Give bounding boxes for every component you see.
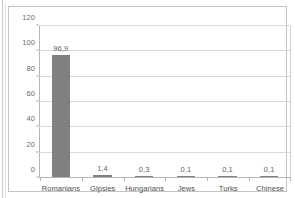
y-axis-tick-label: 100 [22, 38, 35, 47]
bar[interactable]: 0,1 [260, 176, 278, 177]
bar-value-label: 0,1 [180, 165, 191, 174]
bar-column: 1,4 [82, 26, 124, 177]
bar[interactable]: 96,9 [52, 55, 70, 177]
bar[interactable]: 0,3 [135, 176, 153, 177]
bar-value-label: 0,1 [222, 165, 233, 174]
bar-value-label: 0,1 [264, 165, 275, 174]
x-axis-tick-cell [207, 178, 249, 182]
x-axis-tick-cell [82, 178, 124, 182]
bar-value-label: 1,4 [97, 164, 108, 173]
y-axis-tick-mark [36, 75, 39, 76]
x-axis-category-label: Hungarians [124, 184, 166, 193]
x-axis-tick-mark [207, 178, 208, 181]
x-axis-tick-cell [249, 178, 291, 182]
bar[interactable]: 0,1 [177, 176, 195, 177]
x-axis-ticks-group [40, 178, 291, 182]
bar-column: 0,1 [207, 26, 249, 177]
x-axis-category-label: Jews [165, 184, 207, 193]
plot-area: 020406080100120 96,91,40,30,10,10,1 [39, 26, 291, 178]
y-axis-tick-mark [36, 50, 39, 51]
y-axis-tick-mark [36, 25, 39, 26]
bar-value-label: 0,3 [139, 165, 150, 174]
chart-frame: 020406080100120 96,91,40,30,10,10,1 Roma… [8, 6, 287, 192]
x-axis-category-label: Romanians [40, 184, 82, 193]
bar-value-label: 96,9 [53, 44, 68, 53]
x-axis-tick-mark [124, 178, 125, 181]
bar[interactable]: 1,4 [93, 175, 111, 177]
x-axis-tick-mark [249, 178, 250, 181]
x-axis-tick-mark [82, 178, 83, 181]
x-axis-tick-end [290, 178, 291, 181]
x-axis-tick-cell [165, 178, 207, 182]
y-axis-tick-label: 120 [22, 13, 35, 22]
y-axis-tick-label: 40 [26, 114, 35, 123]
x-axis-category-label: Gipsies [82, 184, 124, 193]
x-axis-tick-cell [124, 178, 166, 182]
x-axis-category-label: Turks [207, 184, 249, 193]
y-axis-tick-label: 0 [31, 165, 35, 174]
bar[interactable]: 0,1 [218, 176, 236, 177]
y-axis-tick-mark [36, 126, 39, 127]
x-axis-category-label: Chinese [249, 184, 291, 193]
bar-column: 96,9 [40, 26, 82, 177]
left-edge-artifact-outer [2, 0, 3, 198]
y-axis-tick-label: 60 [26, 89, 35, 98]
x-axis-tick-mark [165, 178, 166, 181]
x-axis-tick-mark [40, 178, 41, 181]
y-axis-tick-mark [36, 151, 39, 152]
bar-column: 0,1 [248, 26, 290, 177]
y-axis-tick-mark [36, 101, 39, 102]
y-axis-tick-label: 80 [26, 63, 35, 72]
bars-group: 96,91,40,30,10,10,1 [40, 26, 290, 177]
bar-column: 0,3 [123, 26, 165, 177]
y-axis-tick-label: 20 [26, 139, 35, 148]
y-axis-tick-mark [36, 177, 39, 178]
x-axis-tick-cell [40, 178, 82, 182]
x-axis-labels-group: RomaniansGipsiesHungariansJewsTurksChine… [40, 184, 291, 193]
bar-column: 0,1 [165, 26, 207, 177]
left-edge-artifact-inner [5, 2, 6, 198]
